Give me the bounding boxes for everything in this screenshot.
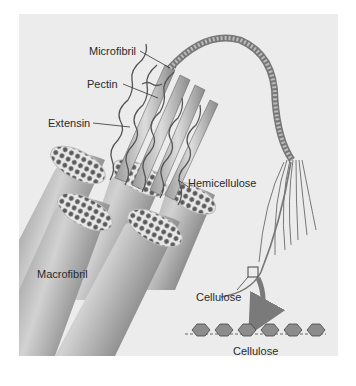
label-cellulose-fiber: Cellulose: [196, 291, 241, 303]
zoom-box: [248, 267, 258, 277]
label-pectin: Pectin: [87, 78, 118, 90]
label-cellulose-chain: Cellulose: [233, 345, 278, 357]
cell-wall-diagram: [0, 0, 356, 386]
label-hemicellulose: Hemicellulose: [188, 177, 256, 189]
label-microfibril: Microfibril: [89, 45, 136, 57]
magnify-arrow: [258, 278, 263, 318]
cellulose-chain: [185, 324, 326, 336]
cellulose-bundle: [170, 38, 316, 297]
label-extensin: Extensin: [48, 117, 90, 129]
label-macrofibril: Macrofibril: [37, 268, 88, 280]
